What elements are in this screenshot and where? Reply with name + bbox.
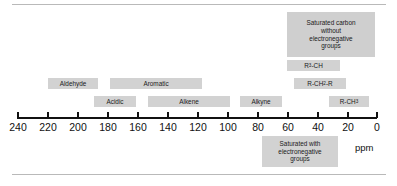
range-box-saturated-with-electronegative: Saturated with electronegative groups [262, 136, 338, 167]
range-box-alkyne: Alkyne [240, 96, 282, 107]
nmr-chemical-shift-chart: Saturated carbon without electronegative… [0, 0, 397, 186]
axis-tick-label-40: 40 [301, 121, 335, 133]
axis-tick-200 [77, 112, 79, 118]
range-box-aldehyde: Aldehyde [48, 78, 98, 89]
axis-tick-20 [347, 112, 349, 118]
axis-tick-label-100: 100 [211, 121, 245, 133]
axis-tick-label-160: 160 [121, 121, 155, 133]
range-box-r-ch3: R-CH3 [329, 96, 369, 107]
range-box-aromatic: Aromatic [110, 78, 202, 89]
axis-tick-60 [287, 112, 289, 118]
range-box-saturated-carbon-without: Saturated carbon without electronegative… [287, 12, 375, 57]
ppm-unit-label: ppm [355, 142, 373, 153]
axis-tick-220 [47, 112, 49, 118]
axis-tick-label-240: 240 [1, 121, 35, 133]
axis-tick-label-120: 120 [181, 121, 215, 133]
axis-tick-label-0: 0 [360, 121, 394, 133]
axis-tick-label-80: 80 [241, 121, 275, 133]
axis-tick-160 [137, 112, 139, 118]
axis-tick-240 [17, 112, 19, 118]
axis-tick-label-220: 220 [31, 121, 65, 133]
axis-tick-label-60: 60 [271, 121, 305, 133]
axis-tick-label-180: 180 [91, 121, 125, 133]
axis-tick-100 [227, 112, 229, 118]
axis-tick-0 [376, 112, 378, 118]
axis-tick-120 [197, 112, 199, 118]
axis-tick-140 [167, 112, 169, 118]
range-box-r-ch2-r: R-CH2-R [294, 78, 346, 89]
axis-tick-180 [107, 112, 109, 118]
axis-tick-40 [317, 112, 319, 118]
axis-tick-80 [257, 112, 259, 118]
range-box-r3-ch: R3-CH [287, 60, 340, 71]
range-box-acidic: Acidic [94, 96, 136, 107]
range-box-alkene: Alkene [148, 96, 230, 107]
chart-plot-area: Saturated carbon without electronegative… [0, 0, 397, 186]
axis-tick-label-200: 200 [61, 121, 95, 133]
axis-tick-label-140: 140 [151, 121, 185, 133]
